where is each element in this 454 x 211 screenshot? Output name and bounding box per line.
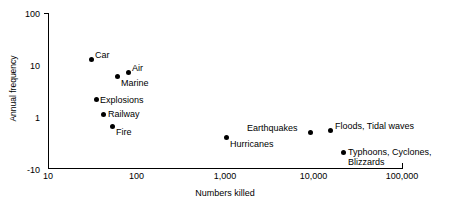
data-point-marker <box>126 70 131 75</box>
x-tick-label: 10 <box>43 172 53 181</box>
data-point-label: Explosions <box>100 95 144 105</box>
data-point-label: Railway <box>108 109 140 119</box>
data-point-marker <box>115 74 120 79</box>
data-point-marker <box>341 150 346 155</box>
data-point-label: Floods, Tidal waves <box>335 121 414 131</box>
y-tick-label: -10 <box>27 166 40 175</box>
data-point-label: Typhoons, Cyclones, Blizzards <box>348 147 444 167</box>
data-point-label: Marine <box>121 78 149 88</box>
data-point-marker <box>110 124 115 129</box>
data-point-marker <box>224 135 229 140</box>
data-point-label: Air <box>132 63 143 73</box>
x-tick-label: 100 <box>129 172 144 181</box>
data-point-marker <box>328 128 333 133</box>
x-tick-label: 100,000 <box>386 172 419 181</box>
x-axis-title: Numbers killed <box>195 189 255 198</box>
data-point-label: Fire <box>116 127 132 137</box>
x-axis-line <box>48 168 403 169</box>
scatter-chart: 101001,00010,000100,000100101-10 Annual … <box>0 0 454 211</box>
data-point-label: Car <box>95 50 110 60</box>
y-tick-label: 1 <box>35 114 40 123</box>
x-tick-label: 10,000 <box>300 172 328 181</box>
y-axis-top-cap <box>44 13 48 14</box>
data-point-label: Hurricanes <box>230 139 274 149</box>
y-axis-title: Annual frequency <box>9 29 18 149</box>
data-point-marker <box>94 97 99 102</box>
y-tick-major <box>0 148 5 149</box>
y-tick-label: 10 <box>30 62 40 71</box>
data-point-marker <box>89 57 94 62</box>
x-tick-label: 1,000 <box>214 172 237 181</box>
data-point-marker <box>308 130 313 135</box>
y-tick-label: 100 <box>25 10 40 19</box>
y-axis-line <box>48 13 49 169</box>
data-point-marker <box>101 112 106 117</box>
data-point-label: Earthquakes <box>247 123 298 133</box>
